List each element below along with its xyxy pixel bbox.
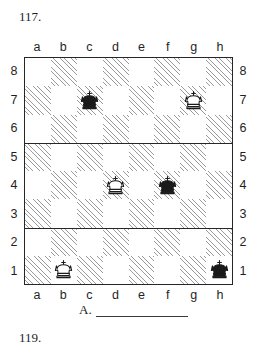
square-a3[interactable] xyxy=(25,199,51,227)
square-a2[interactable] xyxy=(25,228,51,256)
square-g3[interactable] xyxy=(180,199,206,227)
answer-label: A. xyxy=(79,303,92,317)
square-c5[interactable] xyxy=(77,143,103,171)
square-e3[interactable] xyxy=(129,199,155,227)
file-label-d-top: d xyxy=(102,40,128,54)
rank-label-7-left: 7 xyxy=(7,86,21,115)
square-e1[interactable] xyxy=(129,256,155,284)
rank-label-6-left: 6 xyxy=(7,114,21,143)
square-e8[interactable] xyxy=(129,58,155,86)
file-label-e-bottom: e xyxy=(129,288,155,302)
square-c1[interactable] xyxy=(77,256,103,284)
square-c2[interactable] xyxy=(77,228,103,256)
square-h6[interactable] xyxy=(206,115,232,143)
black-king-icon[interactable] xyxy=(79,90,100,111)
white-king-icon[interactable] xyxy=(183,90,204,111)
square-g7[interactable] xyxy=(180,86,206,114)
square-c3[interactable] xyxy=(77,199,103,227)
white-king-icon[interactable] xyxy=(105,175,126,196)
square-b1[interactable] xyxy=(51,256,77,284)
square-b4[interactable] xyxy=(51,171,77,199)
rank-label-4-right: 4 xyxy=(236,171,250,200)
square-b8[interactable] xyxy=(51,58,77,86)
square-f2[interactable] xyxy=(154,228,180,256)
square-a4[interactable] xyxy=(25,171,51,199)
square-f8[interactable] xyxy=(154,58,180,86)
square-b3[interactable] xyxy=(51,199,77,227)
square-d4[interactable] xyxy=(103,171,129,199)
answer-row: A. xyxy=(79,303,188,317)
file-label-b-top: b xyxy=(50,40,76,54)
square-d2[interactable] xyxy=(103,228,129,256)
square-a5[interactable] xyxy=(25,143,51,171)
square-h2[interactable] xyxy=(206,228,232,256)
square-f6[interactable] xyxy=(154,115,180,143)
square-f4[interactable] xyxy=(154,171,180,199)
square-h7[interactable] xyxy=(206,86,232,114)
square-h3[interactable] xyxy=(206,199,232,227)
square-g8[interactable] xyxy=(180,58,206,86)
square-a6[interactable] xyxy=(25,115,51,143)
square-f7[interactable] xyxy=(154,86,180,114)
square-a8[interactable] xyxy=(25,58,51,86)
square-g6[interactable] xyxy=(180,115,206,143)
square-d6[interactable] xyxy=(103,115,129,143)
file-label-b-bottom: b xyxy=(50,288,76,302)
square-e6[interactable] xyxy=(129,115,155,143)
square-f3[interactable] xyxy=(154,199,180,227)
square-b5[interactable] xyxy=(51,143,77,171)
square-c7[interactable] xyxy=(77,86,103,114)
square-c4[interactable] xyxy=(77,171,103,199)
square-h8[interactable] xyxy=(206,58,232,86)
square-c8[interactable] xyxy=(77,58,103,86)
square-g1[interactable] xyxy=(180,256,206,284)
rank-label-8-right: 8 xyxy=(236,57,250,86)
rank-label-8-left: 8 xyxy=(7,57,21,86)
rank-label-7-right: 7 xyxy=(236,86,250,115)
square-b7[interactable] xyxy=(51,86,77,114)
file-label-d-bottom: d xyxy=(102,288,128,302)
rank-label-5-right: 5 xyxy=(236,143,250,172)
square-e5[interactable] xyxy=(129,143,155,171)
rank-labels-right: 8 7 6 5 4 3 2 1 xyxy=(236,57,250,285)
square-b6[interactable] xyxy=(51,115,77,143)
problem-number-117: 117. xyxy=(19,10,41,23)
file-labels-top: a b c d e f g h xyxy=(24,40,233,54)
square-e7[interactable] xyxy=(129,86,155,114)
file-label-g-bottom: g xyxy=(181,288,207,302)
rank-label-2-right: 2 xyxy=(236,228,250,257)
square-d1[interactable] xyxy=(103,256,129,284)
file-label-h-bottom: h xyxy=(207,288,233,302)
file-label-e-top: e xyxy=(129,40,155,54)
square-e2[interactable] xyxy=(129,228,155,256)
square-a7[interactable] xyxy=(25,86,51,114)
square-b2[interactable] xyxy=(51,228,77,256)
answer-blank-input[interactable] xyxy=(96,303,188,317)
rank-label-4-left: 4 xyxy=(7,171,21,200)
square-d7[interactable] xyxy=(103,86,129,114)
square-d5[interactable] xyxy=(103,143,129,171)
rank-label-6-right: 6 xyxy=(236,114,250,143)
square-f1[interactable] xyxy=(154,256,180,284)
black-king-icon[interactable] xyxy=(157,175,178,196)
file-label-f-bottom: f xyxy=(155,288,181,302)
square-g4[interactable] xyxy=(180,171,206,199)
square-g2[interactable] xyxy=(180,228,206,256)
square-h4[interactable] xyxy=(206,171,232,199)
square-h1[interactable] xyxy=(206,256,232,284)
rank-label-1-left: 1 xyxy=(7,257,21,286)
black-king-icon[interactable] xyxy=(209,259,230,280)
white-king-icon[interactable] xyxy=(53,259,74,280)
square-g5[interactable] xyxy=(180,143,206,171)
square-c6[interactable] xyxy=(77,115,103,143)
square-e4[interactable] xyxy=(129,171,155,199)
square-a1[interactable] xyxy=(25,256,51,284)
square-d3[interactable] xyxy=(103,199,129,227)
square-f5[interactable] xyxy=(154,143,180,171)
rank-label-2-left: 2 xyxy=(7,228,21,257)
file-labels-bottom: a b c d e f g h xyxy=(24,288,233,302)
square-d8[interactable] xyxy=(103,58,129,86)
file-label-a-bottom: a xyxy=(24,288,50,302)
square-h5[interactable] xyxy=(206,143,232,171)
rank-label-3-right: 3 xyxy=(236,200,250,229)
